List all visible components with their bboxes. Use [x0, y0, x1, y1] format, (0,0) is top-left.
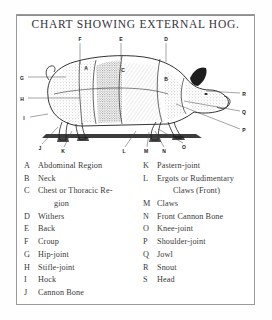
shoulder-shading	[96, 61, 122, 123]
legend-item-label: Hock	[38, 274, 56, 287]
legend-item-label: Back	[38, 223, 55, 236]
ear	[190, 67, 207, 86]
callout-letter: K	[61, 148, 65, 154]
hoof	[57, 138, 69, 142]
legend-item-label: Claws	[157, 198, 178, 211]
legend-item-label: Jowl	[157, 249, 173, 262]
legend-column-right: KPastern-jointLErgots or RudimentaryClaw…	[135, 160, 254, 300]
legend-item: LErgots or RudimentaryClaws (Front)	[135, 173, 254, 198]
callout-letter: L	[122, 148, 125, 154]
legend-item-letter: Q	[135, 249, 157, 262]
legend-item-letter: C	[16, 185, 38, 198]
legend-item: PShoulder-joint	[135, 236, 254, 249]
callout-letter: E	[119, 36, 123, 42]
legend-item-label: Front Cannon Bone	[157, 211, 223, 224]
hog-diagram: FEDGHIACBRQPJKLMNO	[18, 34, 253, 154]
legend-item-label: Head	[157, 274, 175, 287]
callout-letter: P	[242, 127, 246, 133]
legend-item-label: Ergots or RudimentaryClaws (Front)	[157, 173, 234, 198]
legend-item-label-continued: Claws (Front)	[157, 185, 234, 198]
legend-item: HStifle-joint	[16, 262, 135, 275]
legend-item-letter: M	[135, 198, 157, 211]
legend-item-label: Chest or Thoracic Re-gion	[38, 185, 112, 210]
legend-item: BNeck	[16, 173, 135, 186]
legend-item-letter: O	[135, 223, 157, 236]
callout-letter: D	[164, 36, 168, 42]
legend-item-label: Snout	[157, 262, 177, 275]
legend-item: IHock	[16, 274, 135, 287]
legend-item: QJowl	[135, 249, 254, 262]
chart-page: CHART SHOWING EXTERNAL HOG.	[0, 0, 272, 320]
legend-item: RSnout	[135, 262, 254, 275]
legend-item-label: Shoulder-joint	[157, 236, 206, 249]
legend-item: SHead	[135, 274, 254, 287]
legend-item-label: Withers	[38, 211, 64, 224]
callout-letter: Q	[242, 109, 246, 115]
callout-letter: J	[39, 145, 42, 151]
legend-item-letter: B	[16, 173, 38, 186]
callout-letter: I	[23, 115, 25, 121]
legend-item-letter: G	[16, 249, 38, 262]
callout-letter: C	[121, 67, 125, 73]
hog-body	[48, 56, 229, 126]
legend-item-letter: N	[135, 211, 157, 224]
legend-item-letter: E	[16, 223, 38, 236]
legend-item-letter: S	[135, 274, 157, 287]
callout-letter: H	[20, 96, 24, 102]
title-divider-rule	[17, 15, 254, 16]
croup-shading	[50, 61, 96, 124]
legend-item: FCroup	[16, 236, 135, 249]
legend-item: AAbdominal Region	[16, 160, 135, 173]
legend-item-letter: I	[16, 274, 38, 287]
callout-letter: F	[78, 36, 81, 42]
chest-shading	[124, 63, 162, 122]
legend-item-label-continued: gion	[38, 198, 112, 211]
legend-item: OKnee-joint	[135, 223, 254, 236]
legend-item-letter: D	[16, 211, 38, 224]
eye	[204, 93, 207, 95]
callout-letter: O	[182, 144, 186, 150]
legend-item-label: Hip-joint	[38, 249, 69, 262]
legend-item: EBack	[16, 223, 135, 236]
callout-letter: M	[144, 148, 148, 154]
page-title: CHART SHOWING EXTERNAL HOG.	[16, 18, 255, 30]
legend-item-letter: J	[16, 287, 38, 300]
legend-item-letter: H	[16, 262, 38, 275]
callout-letter: B	[164, 76, 168, 82]
legend-item-label: Pastern-joint	[157, 160, 200, 173]
legend-item: JCannon Bone	[16, 287, 135, 300]
legend-item: KPastern-joint	[135, 160, 254, 173]
legend: AAbdominal RegionBNeckCChest or Thoracic…	[16, 160, 255, 300]
legend-item-label: Stifle-joint	[38, 262, 75, 275]
legend-item: MClaws	[135, 198, 254, 211]
legend-item: GHip-joint	[16, 249, 135, 262]
callout-letter: G	[20, 75, 24, 81]
hoof	[77, 137, 89, 141]
legend-item-letter: K	[135, 160, 157, 173]
head-shading	[186, 82, 226, 110]
legend-item-label: Neck	[38, 173, 56, 186]
hog-diagram-svg: FEDGHIACBRQPJKLMNO	[18, 34, 253, 154]
callout-leader-line	[30, 114, 48, 117]
callout-letter: N	[162, 148, 166, 154]
legend-item-label: Knee-joint	[157, 223, 193, 236]
legend-item-label: Cannon Bone	[38, 287, 84, 300]
legend-item-letter: A	[16, 160, 38, 173]
legend-item-label: Abdominal Region	[38, 160, 102, 173]
legend-item: DWithers	[16, 211, 135, 224]
legend-item-letter: L	[135, 173, 157, 186]
legend-item: CChest or Thoracic Re-gion	[16, 185, 135, 210]
callout-letter: R	[242, 91, 246, 97]
legend-item-letter: R	[135, 262, 157, 275]
callout-leader-line	[125, 131, 136, 147]
legend-item-letter: F	[16, 236, 38, 249]
legend-item-label: Croup	[38, 236, 59, 249]
callout-letter: A	[84, 65, 88, 71]
legend-item-letter: P	[135, 236, 157, 249]
legend-item: NFront Cannon Bone	[135, 211, 254, 224]
legend-column-left: AAbdominal RegionBNeckCChest or Thoracic…	[16, 160, 135, 300]
